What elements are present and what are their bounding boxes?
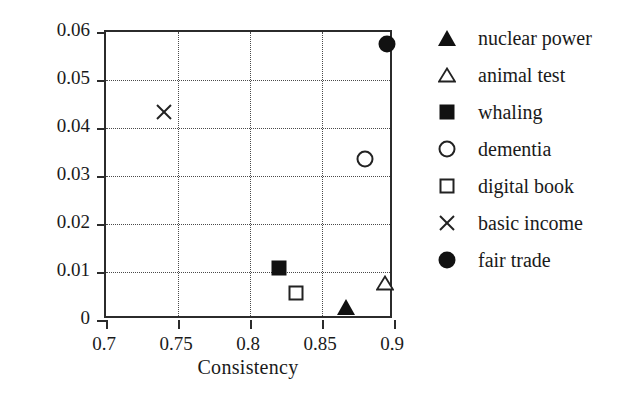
legend-item-label: animal test [478,61,565,89]
x-axis-title: Consistency [104,356,392,379]
gridline-vertical [250,32,251,316]
marker-square-open-icon [440,179,455,194]
x-axis-tick-label: 0.7 [64,334,144,353]
x-axis-tick [106,320,108,329]
legend-item[interactable]: whaling [432,98,622,135]
legend-item-label: fair trade [478,246,551,274]
legend-item[interactable]: animal test [432,61,622,98]
marker-circle-open-icon [357,151,374,168]
marker-triangle-filled-icon [438,30,456,46]
legend-marker [432,246,462,274]
y-axis-tick-label: 0.06 [20,20,90,39]
legend-item-label: basic income [478,209,583,237]
x-axis-tick [250,320,252,329]
y-axis-tick-label: 0.02 [20,212,90,231]
marker-square-filled-icon [271,261,286,276]
legend-item[interactable]: dementia [432,135,622,172]
gridline-vertical [178,32,179,316]
legend-item-label: digital book [478,172,574,200]
legend-item[interactable]: digital book [432,172,622,209]
x-axis-tick-label: 0.8 [208,334,288,353]
legend-item-label: whaling [478,98,542,126]
y-axis-tick-label: 0.05 [20,68,90,87]
marker-square-open-icon [289,286,304,301]
legend-item[interactable]: nuclear power [432,24,622,61]
legend-item[interactable]: basic income [432,209,622,246]
marker-circle-open-icon [439,141,456,158]
y-axis-tick-label: 0 [20,308,90,327]
legend-marker [432,98,462,126]
legend-marker [432,209,462,237]
marker-triangle-filled-icon [337,299,355,315]
marker-square-filled-icon [440,105,455,120]
marker-circle-filled-icon [378,36,395,53]
gridline-vertical [322,32,323,316]
y-axis-tick [97,80,106,82]
gridline-horizontal [106,128,390,129]
legend-marker [432,24,462,52]
y-axis-tick [97,32,106,34]
gridline-horizontal [106,224,390,225]
x-axis-tick [322,320,324,329]
y-axis-tick [97,320,106,322]
x-axis-tick-label: 0.85 [280,334,360,353]
y-axis-tick-label: 0.01 [20,260,90,279]
marker-circle-filled-icon [439,252,456,269]
legend-item[interactable]: fair trade [432,246,622,283]
legend-item-label: nuclear power [478,24,592,52]
y-axis-tick-label: 0.03 [20,164,90,183]
x-axis-tick-label: 0.75 [136,334,216,353]
gridline-horizontal [106,176,390,177]
y-axis-tick [97,128,106,130]
chart-legend: nuclear poweranimal testwhalingdementiad… [432,24,622,283]
y-axis-title: Activeness [0,0,1,20]
gridline-horizontal [106,272,390,273]
plot-area [104,30,392,318]
legend-item-label: dementia [478,135,551,163]
legend-marker [432,61,462,89]
x-axis-tick-label: 0.9 [352,334,432,353]
y-axis-title-label: Activeness [0,0,1,20]
legend-marker [432,135,462,163]
legend-marker [432,172,462,200]
x-axis-tick [394,320,396,329]
x-axis-tick [178,320,180,329]
y-axis-tick [97,176,106,178]
scatter-chart-figure: Activeness Consistency 00.010.020.030.04… [0,0,625,404]
y-axis-tick [97,224,106,226]
y-axis-tick [97,272,106,274]
y-axis-tick-label: 0.04 [20,116,90,135]
gridline-horizontal [106,80,390,81]
